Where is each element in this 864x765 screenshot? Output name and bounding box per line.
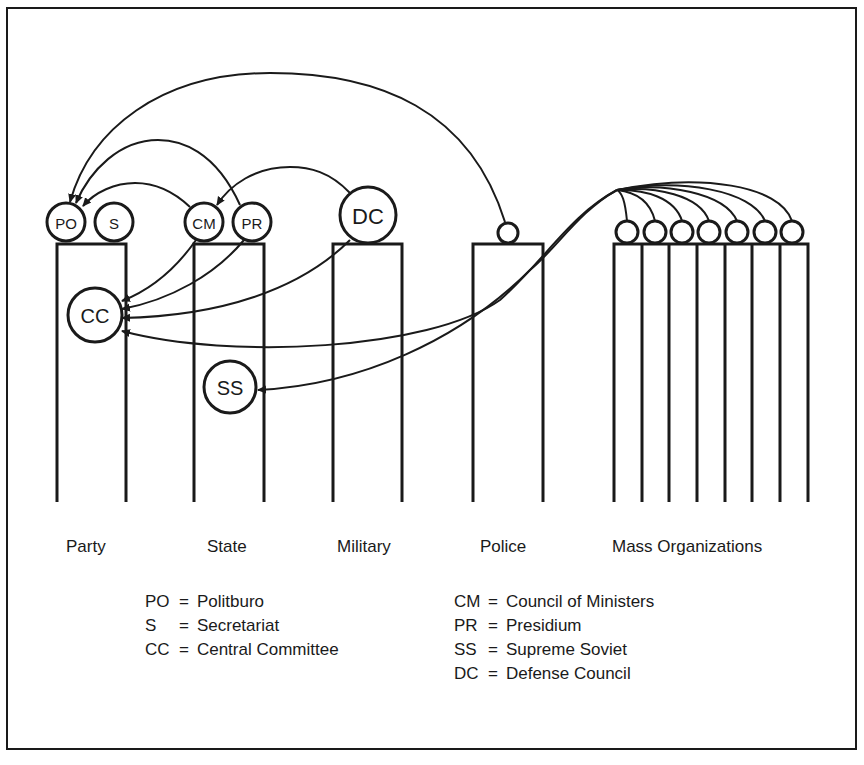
column-label-mass-organizations: Mass Organizations [612, 537, 762, 557]
svg-text:CM: CM [192, 215, 215, 232]
node-s: S [95, 203, 133, 241]
column-label-state: State [207, 537, 247, 557]
node-cm: CM [185, 203, 223, 241]
police-column [473, 244, 543, 502]
node-ss: SS [204, 361, 256, 413]
svg-text:S: S [109, 215, 119, 232]
legend-row-dc: DC=Defense Council [454, 662, 654, 686]
edge-cm-to-cc [122, 240, 196, 301]
node-police-unit [498, 223, 518, 243]
svg-text:CC: CC [81, 305, 110, 327]
legend-row-po: PO=Politburo [145, 590, 339, 614]
legend-row-cc: CC=Central Committee [145, 638, 339, 662]
mass-organizations-columns [614, 244, 808, 502]
column-label-police: Police [480, 537, 526, 557]
node-dc: DC [340, 187, 396, 243]
edge-pr-to-cc [122, 240, 244, 309]
edge-mass-orgs-to-ss [258, 190, 617, 390]
edge-cm-to-po [83, 183, 190, 207]
column-label-party: Party [66, 537, 106, 557]
legend-row-pr: PR=Presidium [454, 614, 654, 638]
legend-left: PO=Politburo S=Secretariat CC=Central Co… [145, 590, 339, 662]
legend-right: CM=Council of Ministers PR=Presidium SS=… [454, 590, 654, 686]
party-column [57, 244, 126, 502]
column-label-military: Military [337, 537, 391, 557]
svg-text:DC: DC [352, 204, 384, 229]
node-pr: PR [233, 203, 271, 241]
legend-row-ss: SS=Supreme Soviet [454, 638, 654, 662]
legend-row-cm: CM=Council of Ministers [454, 590, 654, 614]
svg-text:PR: PR [242, 215, 263, 232]
mass-org-unit-nodes [616, 221, 803, 243]
edge-police-to-po [70, 73, 505, 222]
mass-org-bundle [617, 182, 792, 221]
node-cc: CC [68, 288, 122, 342]
institution-diagram: PO S CM PR DC CC SS [0, 0, 864, 765]
legend-row-s: S=Secretariat [145, 614, 339, 638]
svg-text:PO: PO [55, 215, 77, 232]
military-column [333, 244, 402, 502]
edge-pr-to-po [76, 140, 240, 205]
edge-dc-to-cc [122, 240, 350, 318]
node-po: PO [47, 203, 85, 241]
svg-text:SS: SS [217, 377, 244, 399]
